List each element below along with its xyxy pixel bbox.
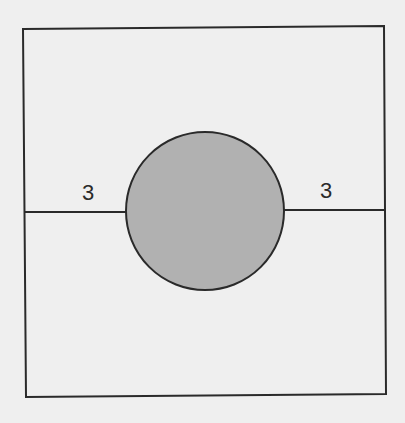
right-length-label: 3	[320, 178, 332, 203]
left-length-label: 3	[82, 180, 94, 205]
diagram-canvas: 3 3	[0, 0, 405, 423]
shaded-circle	[126, 132, 284, 290]
